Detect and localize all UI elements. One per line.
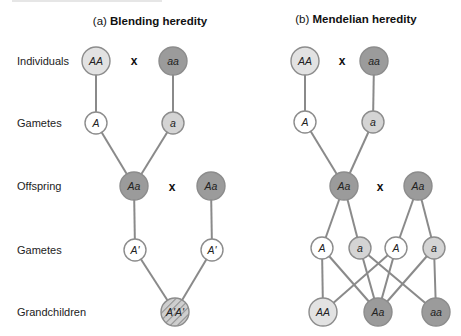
- genotype-node-r_cAA: AA: [309, 298, 337, 326]
- genotype-node-r_g3: A: [385, 237, 407, 259]
- row-labels: Individuals Gametes Offspring Gametes Gr…: [17, 55, 86, 318]
- genotype-label: a: [370, 116, 376, 128]
- genotype-node-r_gA: A: [294, 111, 316, 133]
- nodes-layer: AAaaAaAaAaA'A'A'A'AAaaAaAaAaAaAaAAAaaa: [82, 47, 450, 326]
- row-label-gametes-1: Gametes: [17, 117, 62, 129]
- row-label-grandchildren: Grandchildren: [17, 306, 86, 318]
- genotype-node-l_aa: aa: [159, 47, 187, 75]
- genotype-label: aa: [368, 55, 380, 67]
- genotype-label: A: [317, 242, 325, 254]
- genotype-label: AA: [88, 55, 103, 67]
- genotype-node-l_gA2p: A': [201, 239, 223, 261]
- genotype-label: AA: [315, 306, 330, 318]
- genotype-label: Aa: [371, 306, 385, 318]
- genotype-label: A'A': [165, 306, 185, 318]
- genotype-label: A: [91, 117, 99, 129]
- cross-symbol: x: [169, 180, 176, 194]
- genotype-label: a: [431, 242, 437, 254]
- genotype-node-r_g2: a: [349, 237, 371, 259]
- cross-symbol: x: [377, 180, 384, 194]
- genotype-node-l_ApAp: A'A': [161, 298, 189, 326]
- genotype-node-l_ga: a: [162, 112, 184, 134]
- genotype-label: aa: [430, 306, 442, 318]
- genotype-label: Aa: [411, 180, 425, 192]
- row-label-gametes-2: Gametes: [17, 244, 62, 256]
- panel-prefix-a: (a): [93, 15, 110, 27]
- genotype-label: a: [170, 117, 176, 129]
- panel-prefix-b: (b): [295, 13, 312, 25]
- genotype-label: Aa: [204, 180, 218, 192]
- genotype-node-l_AA: AA: [82, 47, 110, 75]
- genotype-label: Aa: [127, 180, 141, 192]
- row-label-offspring: Offspring: [17, 180, 61, 192]
- genotype-node-r_ga: a: [362, 111, 384, 133]
- genotype-node-r_caa: aa: [422, 298, 450, 326]
- genotype-node-r_AA: AA: [291, 47, 319, 75]
- genotype-node-r_aa: aa: [360, 47, 388, 75]
- panel-title-text-b: Mendelian heredity: [313, 13, 418, 25]
- diagram-canvas: Individuals Gametes Offspring Gametes Gr…: [0, 0, 461, 336]
- row-label-individuals: Individuals: [17, 55, 69, 67]
- panel-title-blending: (a) Blending heredity: [93, 15, 208, 27]
- genotype-label: aa: [167, 55, 179, 67]
- genotype-node-l_gA1p: A': [124, 239, 146, 261]
- genotype-node-l_gA: A: [85, 112, 107, 134]
- genotype-node-r_Aa2: Aa: [404, 172, 432, 200]
- genotype-label: A': [206, 244, 217, 256]
- genotype-label: A': [129, 244, 140, 256]
- top-cutoff-text: [12, 0, 162, 2]
- panel-title-text-a: Blending heredity: [110, 15, 208, 27]
- genotype-node-l_Aa1: Aa: [120, 172, 148, 200]
- cross-symbol: x: [339, 54, 346, 68]
- genotype-label: A: [300, 116, 308, 128]
- cross-symbol: x: [131, 54, 138, 68]
- heredity-diagram: Individuals Gametes Offspring Gametes Gr…: [0, 0, 461, 336]
- genotype-node-r_g4: a: [423, 237, 445, 259]
- genotype-node-r_g1: A: [311, 237, 333, 259]
- genotype-label: AA: [297, 55, 312, 67]
- genotype-node-r_Aa1: Aa: [330, 172, 358, 200]
- genotype-node-l_Aa2: Aa: [197, 172, 225, 200]
- genotype-label: Aa: [337, 180, 351, 192]
- genotype-label: A: [391, 242, 399, 254]
- panel-title-mendelian: (b) Mendelian heredity: [295, 13, 417, 25]
- genotype-label: a: [357, 242, 363, 254]
- genotype-node-r_cAa: Aa: [364, 298, 392, 326]
